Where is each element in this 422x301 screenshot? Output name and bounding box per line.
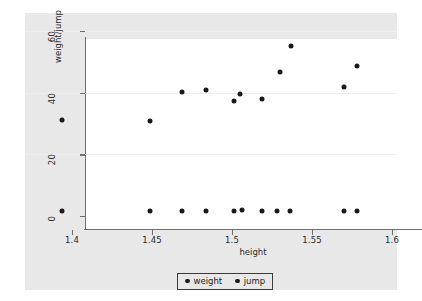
x-axis-line xyxy=(84,229,422,230)
plot-area xyxy=(85,39,421,229)
chart-legend: weight jump xyxy=(177,273,273,290)
data-point-jump xyxy=(148,208,153,213)
data-point-weight xyxy=(60,117,65,122)
y-axis-tick xyxy=(80,93,85,94)
data-point-jump xyxy=(342,208,347,213)
x-axis-tick-label: 1.55 xyxy=(302,235,322,245)
data-point-jump xyxy=(260,208,265,213)
legend-label: weight xyxy=(194,276,223,286)
data-point-weight xyxy=(342,85,347,90)
legend-marker-icon xyxy=(185,279,190,284)
x-axis-tick-label: 1.45 xyxy=(142,235,162,245)
y-axis-tick-label: 40 xyxy=(47,93,57,104)
data-point-jump xyxy=(287,209,292,214)
data-point-weight xyxy=(354,63,359,68)
x-axis-tick-label: 1.5 xyxy=(225,235,239,245)
y-axis-title: weight/jump xyxy=(53,10,63,63)
legend-marker-icon xyxy=(235,279,240,284)
data-point-weight xyxy=(238,91,243,96)
data-point-jump xyxy=(231,209,236,214)
data-point-weight xyxy=(204,87,209,92)
x-axis-title: height xyxy=(239,247,266,257)
data-point-jump xyxy=(354,208,359,213)
data-point-weight xyxy=(231,99,236,104)
data-point-jump xyxy=(204,208,209,213)
legend-entry-jump[interactable]: jump xyxy=(235,276,265,286)
data-point-jump xyxy=(274,208,279,213)
x-axis-tick-label: 1.6 xyxy=(385,235,399,245)
y-axis-line xyxy=(85,37,86,230)
y-axis-tick xyxy=(80,154,85,155)
data-point-weight xyxy=(289,44,294,49)
y-axis-tick xyxy=(80,31,85,32)
legend-entry-weight[interactable]: weight xyxy=(185,276,222,286)
y-axis-tick xyxy=(80,216,85,217)
graph-region: 0204060 1.41.451.51.551.6 weight/jump he… xyxy=(25,13,397,290)
x-axis-tick-label: 1.4 xyxy=(65,235,79,245)
data-point-jump xyxy=(60,208,65,213)
y-axis-tick-label: 20 xyxy=(47,154,57,165)
data-point-weight xyxy=(148,119,153,124)
data-point-weight xyxy=(278,70,283,75)
y-axis-tick-label: 0 xyxy=(47,216,57,222)
data-point-jump xyxy=(180,208,185,213)
legend-label: jump xyxy=(244,276,265,286)
data-point-weight xyxy=(180,90,185,95)
data-point-jump xyxy=(239,207,244,212)
data-point-weight xyxy=(260,97,265,102)
